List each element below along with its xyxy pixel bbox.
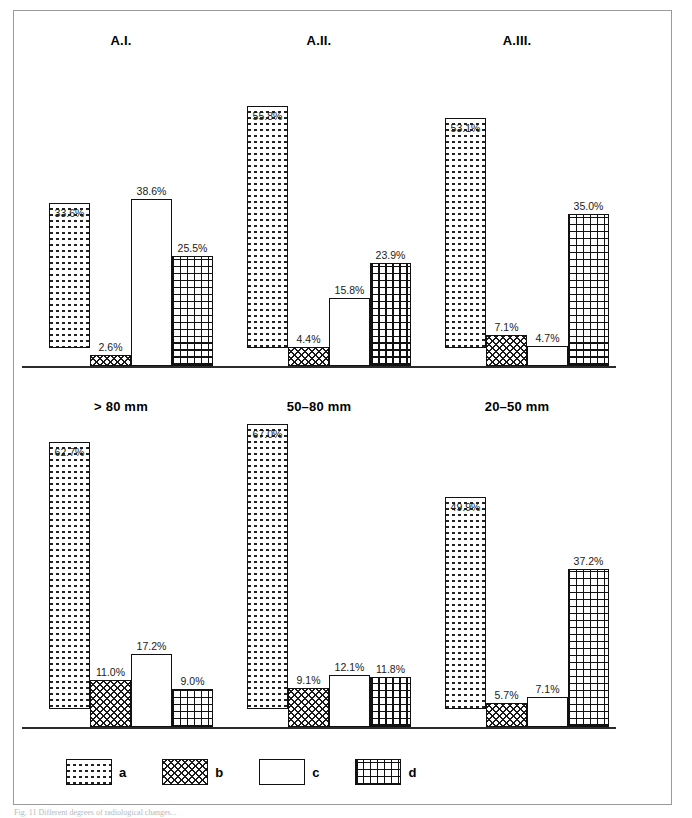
bar-value-label: 35.0%	[574, 200, 604, 212]
bar-value-label: 33.6%	[55, 207, 85, 219]
bar-value-label: 25.5%	[178, 242, 208, 254]
bar-value-label: 9.0%	[181, 675, 205, 687]
bar-value-label: 11.8%	[376, 663, 405, 675]
bar-a2-a: 55.8%	[247, 106, 288, 366]
bar-value-label: 23.9%	[376, 249, 406, 261]
bar-rect-s1-d	[172, 689, 213, 727]
bar-rect-a2-c	[329, 298, 370, 366]
bar-rect-s1-c	[131, 654, 172, 727]
bar-value-label: 49.9%	[451, 501, 481, 513]
bar-value-label: 17.2%	[137, 640, 167, 652]
figure-caption: Fig. 11 Different degrees of radiologica…	[14, 808, 674, 817]
bar-value-label: 15.8%	[335, 284, 365, 296]
baseline-a2	[220, 366, 418, 368]
bar-value-label: 7.1%	[536, 683, 560, 695]
panel-title-a2: A.II.	[220, 33, 418, 48]
bar-value-label: 9.1%	[297, 674, 321, 686]
figure-frame: A.I.33.6%2.6%38.6%25.5%A.II.55.8%4.4%15.…	[13, 10, 672, 805]
baseline-s3	[418, 727, 616, 729]
bar-s2-d: 11.8%	[370, 659, 411, 727]
bar-a3-b: 7.1%	[486, 317, 527, 366]
chart-panel-a1: A.I.33.6%2.6%38.6%25.5%	[22, 33, 220, 383]
plot-area-s1: 62.7%11.0%17.2%9.0%	[22, 419, 220, 729]
bar-a1-d: 25.5%	[172, 238, 213, 366]
bar-rect-s2-b	[288, 688, 329, 727]
bar-s2-c: 12.1%	[329, 657, 370, 727]
panel-title-s2: 50–80 mm	[220, 399, 418, 414]
bar-s2-b: 9.1%	[288, 670, 329, 727]
bar-group-a2: 55.8%4.4%15.8%23.9%	[220, 53, 418, 366]
bar-rect-a2-b	[288, 347, 329, 366]
bar-rect-s3-b	[486, 703, 527, 727]
bar-value-label: 53.1%	[451, 122, 481, 134]
bar-value-label: 62.7%	[55, 446, 85, 458]
panel-title-a1: A.I.	[22, 33, 220, 48]
bar-a3-c: 4.7%	[527, 328, 568, 366]
bar-rect-s2-d	[370, 677, 411, 727]
legend-label-c: c	[312, 765, 319, 780]
bar-s1-d: 9.0%	[172, 671, 213, 727]
chart-panel-s3: 20–50 mm49.9%5.7%7.1%37.2%	[418, 399, 616, 744]
baseline-s2	[220, 727, 418, 729]
legend-label-d: d	[408, 765, 416, 780]
bar-rect-a2-d	[370, 263, 411, 366]
bar-value-label: 67.0%	[253, 428, 283, 440]
bar-a1-b: 2.6%	[90, 337, 131, 366]
baseline-a3	[418, 366, 616, 368]
bar-rect-s3-c	[527, 697, 568, 727]
bar-rect-s1-a	[49, 442, 90, 709]
chart-panel-a3: A.III.53.1%7.1%4.7%35.0%	[418, 33, 616, 383]
bar-value-label: 7.1%	[495, 321, 519, 333]
legend-swatch-c	[259, 759, 305, 785]
bar-value-label: 37.2%	[574, 555, 604, 567]
bar-rect-a1-b	[90, 355, 131, 366]
bar-group-s1: 62.7%11.0%17.2%9.0%	[22, 419, 220, 727]
baseline-a1	[22, 366, 220, 368]
bar-rect-a3-a	[445, 118, 486, 348]
chart-panel-s2: 50–80 mm67.0%9.1%12.1%11.8%	[220, 399, 418, 744]
bar-s1-c: 17.2%	[131, 636, 172, 727]
panel-title-s3: 20–50 mm	[418, 399, 616, 414]
legend-swatch-b	[162, 759, 208, 785]
bar-rect-a3-b	[486, 335, 527, 366]
bar-s1-a: 62.7%	[49, 442, 90, 727]
bar-rect-s3-a	[445, 497, 486, 709]
legend-item-a: a	[66, 759, 126, 785]
chart-panel-a2: A.II.55.8%4.4%15.8%23.9%	[220, 33, 418, 383]
bar-value-label: 2.6%	[99, 341, 123, 353]
bar-rect-s2-c	[329, 675, 370, 727]
bar-rect-a2-a	[247, 106, 288, 348]
chart-row-bottom: > 80 mm62.7%11.0%17.2%9.0%50–80 mm67.0%9…	[14, 399, 673, 744]
bar-a2-b: 4.4%	[288, 329, 329, 366]
legend-item-c: c	[259, 759, 319, 785]
bar-value-label: 55.8%	[253, 110, 283, 122]
bar-rect-a1-c	[131, 199, 172, 366]
legend-item-d: d	[355, 759, 416, 785]
bar-s3-b: 5.7%	[486, 685, 527, 727]
bar-value-label: 4.4%	[297, 333, 321, 345]
bar-group-s3: 49.9%5.7%7.1%37.2%	[418, 419, 616, 727]
bar-group-s2: 67.0%9.1%12.1%11.8%	[220, 419, 418, 727]
bar-rect-s1-b	[90, 680, 131, 727]
bar-s3-c: 7.1%	[527, 679, 568, 727]
bar-group-a3: 53.1%7.1%4.7%35.0%	[418, 53, 616, 366]
bar-a3-d: 35.0%	[568, 196, 609, 366]
bar-a2-c: 15.8%	[329, 280, 370, 366]
bar-s3-d: 37.2%	[568, 551, 609, 727]
bar-value-label: 12.1%	[335, 661, 365, 673]
bar-value-label: 38.6%	[137, 185, 167, 197]
plot-area-a1: 33.6%2.6%38.6%25.5%	[22, 53, 220, 368]
bar-rect-s2-a	[247, 424, 288, 709]
bar-rect-a3-c	[527, 346, 568, 366]
bar-rect-a1-d	[172, 256, 213, 366]
legend-item-b: b	[162, 759, 223, 785]
bar-rect-a3-d	[568, 214, 609, 366]
bar-value-label: 11.0%	[96, 666, 125, 678]
legend-swatch-d	[355, 759, 401, 785]
plot-area-s3: 49.9%5.7%7.1%37.2%	[418, 419, 616, 729]
panel-title-a3: A.III.	[418, 33, 616, 48]
bar-s2-a: 67.0%	[247, 424, 288, 727]
legend-label-b: b	[215, 765, 223, 780]
bar-value-label: 5.7%	[495, 689, 519, 701]
bar-rect-s3-d	[568, 569, 609, 727]
